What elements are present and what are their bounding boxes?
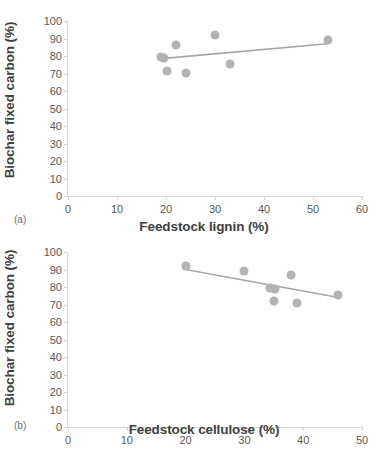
x-tick-label-a-2: 20 — [160, 203, 172, 215]
trendline-segment-b — [186, 270, 339, 298]
y-tick-mark-b-8 — [64, 287, 68, 288]
data-point-b-0 — [181, 262, 190, 271]
x-tick-label-a-4: 40 — [258, 203, 270, 215]
data-point-a-2 — [171, 40, 180, 49]
x-tick-mark-a-2 — [166, 196, 167, 200]
chart-panel-b: Biochar fixed carbon (%) 010203040506070… — [0, 232, 380, 458]
y-tick-label-b-1: 10 — [50, 404, 62, 416]
y-tick-mark-a-2 — [64, 161, 68, 162]
y-tick-mark-a-10 — [64, 21, 68, 22]
y-tick-mark-a-3 — [64, 144, 68, 145]
y-tick-mark-a-8 — [64, 56, 68, 57]
y-tick-mark-a-4 — [64, 126, 68, 127]
y-tick-mark-a-6 — [64, 91, 68, 92]
y-tick-label-b-9: 90 — [50, 264, 62, 276]
y-tick-mark-a-1 — [64, 179, 68, 180]
data-point-a-3 — [162, 66, 171, 75]
y-tick-mark-b-4 — [64, 357, 68, 358]
data-point-a-7 — [323, 36, 332, 45]
y-tick-mark-b-10 — [64, 252, 68, 253]
y-axis-title-b: Biochar fixed carbon (%) — [2, 228, 17, 428]
y-tick-label-b-2: 20 — [50, 386, 62, 398]
data-point-a-6 — [225, 59, 234, 68]
x-tick-mark-a-0 — [68, 196, 69, 200]
y-tick-mark-a-9 — [64, 39, 68, 40]
x-tick-mark-a-3 — [215, 196, 216, 200]
data-point-a-4 — [181, 68, 190, 77]
y-axis-title-a: Biochar fixed carbon (%) — [2, 0, 17, 200]
y-tick-mark-b-7 — [64, 305, 68, 306]
data-point-b-7 — [334, 290, 343, 299]
plot-area-a: 01020304050607080901000102030405060 — [68, 21, 362, 196]
y-tick-label-b-10: 100 — [44, 246, 62, 258]
x-tick-label-a-5: 50 — [307, 203, 319, 215]
trendline-a — [68, 21, 362, 196]
x-tick-label-a-1: 10 — [111, 203, 123, 215]
y-tick-label-a-4: 40 — [50, 120, 62, 132]
y-tick-label-a-8: 80 — [50, 50, 62, 62]
data-point-b-5 — [269, 297, 278, 306]
y-tick-label-a-10: 100 — [44, 15, 62, 27]
data-point-b-3 — [270, 284, 279, 293]
y-tick-mark-a-7 — [64, 74, 68, 75]
y-tick-label-a-1: 10 — [50, 173, 62, 185]
data-point-b-4 — [287, 270, 296, 279]
y-tick-label-a-7: 70 — [50, 68, 62, 80]
y-tick-mark-b-6 — [64, 322, 68, 323]
y-tick-mark-a-5 — [64, 109, 68, 110]
x-tick-mark-a-1 — [117, 196, 118, 200]
x-tick-label-a-0: 0 — [65, 203, 71, 215]
trendline-b — [68, 252, 362, 427]
y-tick-label-a-6: 60 — [50, 85, 62, 97]
y-tick-mark-b-5 — [64, 340, 68, 341]
data-point-a-5 — [211, 31, 220, 40]
y-tick-mark-b-2 — [64, 392, 68, 393]
x-tick-mark-a-5 — [313, 196, 314, 200]
x-tick-label-a-6: 60 — [356, 203, 368, 215]
y-tick-mark-b-9 — [64, 270, 68, 271]
y-tick-label-a-2: 20 — [50, 155, 62, 167]
y-tick-label-b-8: 80 — [50, 281, 62, 293]
y-tick-mark-b-1 — [64, 410, 68, 411]
data-point-b-1 — [240, 267, 249, 276]
y-tick-label-b-6: 60 — [50, 316, 62, 328]
x-tick-mark-a-6 — [362, 196, 363, 200]
data-point-a-1 — [160, 53, 169, 62]
y-tick-label-b-5: 50 — [50, 334, 62, 346]
y-tick-label-a-3: 30 — [50, 138, 62, 150]
panel-label-b: (b) — [14, 420, 26, 431]
x-tick-label-a-3: 30 — [209, 203, 221, 215]
x-axis-title-b: Feedstock cellulose (%) — [14, 422, 380, 437]
plot-area-b: 010203040506070809010001020304050 — [68, 252, 362, 427]
y-tick-label-b-4: 40 — [50, 351, 62, 363]
y-tick-mark-b-3 — [64, 375, 68, 376]
y-tick-label-a-0: 0 — [56, 190, 62, 202]
y-tick-label-b-7: 70 — [50, 299, 62, 311]
trendline-segment-a — [161, 44, 328, 59]
y-tick-label-a-5: 50 — [50, 103, 62, 115]
chart-panel-a: Biochar fixed carbon (%) 010203040506070… — [0, 0, 380, 232]
y-tick-label-a-9: 90 — [50, 33, 62, 45]
x-tick-mark-a-4 — [264, 196, 265, 200]
data-point-b-6 — [293, 298, 302, 307]
panel-label-a: (a) — [14, 214, 26, 225]
y-tick-label-b-3: 30 — [50, 369, 62, 381]
